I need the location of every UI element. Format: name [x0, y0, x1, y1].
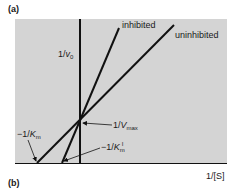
lineweaver-burk-plot — [0, 0, 237, 191]
km-prime-sub: m — [120, 147, 125, 153]
x-axis-label: 1/[S] — [206, 172, 225, 181]
vmax-sub: max — [127, 125, 138, 131]
y-axis-label-sub: 0 — [70, 54, 73, 60]
neg-inv-km-prime-label: −1/KmI — [101, 141, 123, 153]
km-prefix: −1/ — [17, 129, 30, 139]
km-sub: m — [36, 134, 41, 140]
neg-inv-km-label: −1/Km — [17, 130, 41, 140]
km-prime-prefix: −1/ — [101, 142, 114, 152]
y-axis-label-prefix: 1/ — [58, 49, 66, 59]
uninhibited-label: uninhibited — [175, 31, 219, 40]
inv-vmax-label: 1/Vmax — [113, 121, 138, 131]
inhibited-label: inhibited — [122, 21, 156, 30]
vmax-prefix: 1/ — [113, 120, 121, 130]
y-axis-label: 1/v0 — [58, 50, 73, 60]
panel-b-label: (b) — [8, 178, 20, 188]
